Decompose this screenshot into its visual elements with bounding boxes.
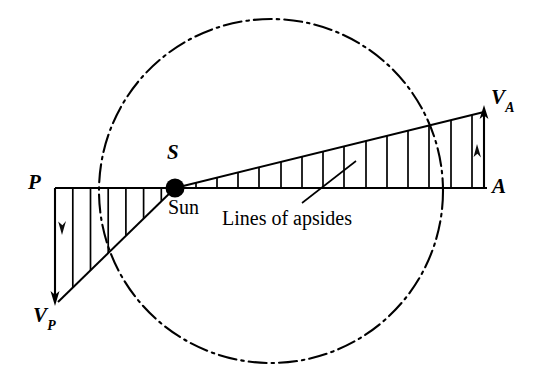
label-velocity-perihelion: VP: [33, 305, 55, 330]
velocity-perihelion-inner-arrowhead: [58, 221, 66, 235]
apsides-caption-leader-line: [302, 161, 356, 203]
left-triangle-hypotenuse: [58, 188, 175, 302]
label-velocity-aphelion: VA: [491, 87, 514, 112]
velocity-perihelion-symbol: V: [33, 303, 47, 327]
label-sun-word: Sun: [168, 197, 199, 217]
velocity-perihelion-subscript: P: [47, 318, 55, 333]
velocity-aphelion-inner-arrowhead: [474, 144, 481, 158]
label-sun-point: S: [167, 142, 179, 163]
diagram-canvas: [0, 0, 533, 386]
sun-marker: [166, 179, 185, 198]
velocity-aphelion-symbol: V: [491, 85, 505, 109]
velocity-aphelion-subscript: A: [505, 100, 514, 115]
label-lines-of-apsides: Lines of apsides: [222, 208, 352, 228]
left-triangle-hatching: [73, 188, 162, 288]
label-perihelion-point: P: [28, 172, 41, 193]
orbit-circle: [99, 19, 443, 363]
label-aphelion-point: A: [492, 176, 506, 197]
orbital-diagram-figure: P A S Sun VA VP Lines of apsides: [0, 0, 533, 386]
